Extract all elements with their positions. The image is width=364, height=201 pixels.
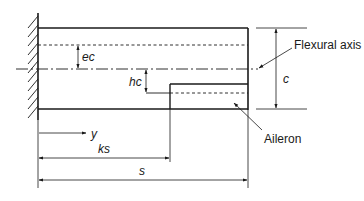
wing-aileron-diagram: ec hc c Flexural axis Aileron y ks xyxy=(0,0,364,201)
y-label: y xyxy=(90,127,98,141)
aileron-outline xyxy=(146,84,248,109)
s-label: s xyxy=(139,164,145,178)
flexural-axis-label: Flexural axis xyxy=(294,38,361,52)
hc-label: hc xyxy=(129,75,142,89)
ks-dimension: ks xyxy=(39,142,169,158)
s-dimension: s xyxy=(39,164,247,180)
fixed-wall-support xyxy=(28,13,38,120)
ec-label: ec xyxy=(82,50,95,64)
c-label: c xyxy=(283,72,289,86)
hc-dimension: hc xyxy=(129,70,146,92)
ec-dimension: ec xyxy=(78,46,95,68)
flexural-axis-callout: Flexural axis xyxy=(259,38,361,68)
y-coordinate-arrow: y xyxy=(39,127,98,141)
ks-label: ks xyxy=(98,142,110,156)
aileron-label: Aileron xyxy=(264,132,301,146)
